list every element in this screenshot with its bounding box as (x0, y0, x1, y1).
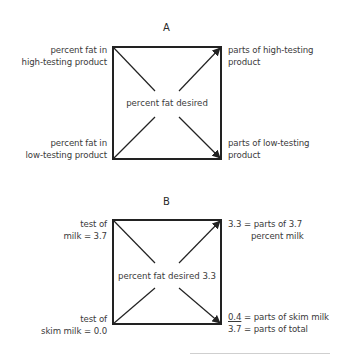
panel-b-top-right-label: 3.3 = parts of 3.7 percent milk (228, 218, 304, 242)
panel-a-center-label: percent fat desired (113, 97, 221, 109)
skim-parts-value: 0.4 (228, 312, 241, 322)
panel-b-bottom-right-label: 0.4 = parts of skim milk 3.7 = parts of … (228, 311, 329, 335)
panel-b-bottom-left-label: test of skim milk = 0.0 (41, 313, 107, 337)
panel-b-heading: B (163, 196, 170, 207)
panel-a-bottom-left-label: percent fat in low-testing product (26, 137, 107, 161)
total-parts-value: 3.7 (228, 324, 241, 334)
bottom-divider (190, 353, 330, 354)
panel-b-top-left-label: test of milk = 3.7 (64, 218, 107, 242)
panel-a-top-left-label: percent fat in high-testing product (22, 44, 107, 68)
panel-a-top-right-label: parts of high-testing product (228, 44, 313, 68)
panel-b-center-label: percent fat desired 3.3 (113, 270, 221, 282)
panel-a-heading: A (163, 22, 170, 33)
panel-a-bottom-right-label: parts of low-testing product (228, 137, 309, 161)
